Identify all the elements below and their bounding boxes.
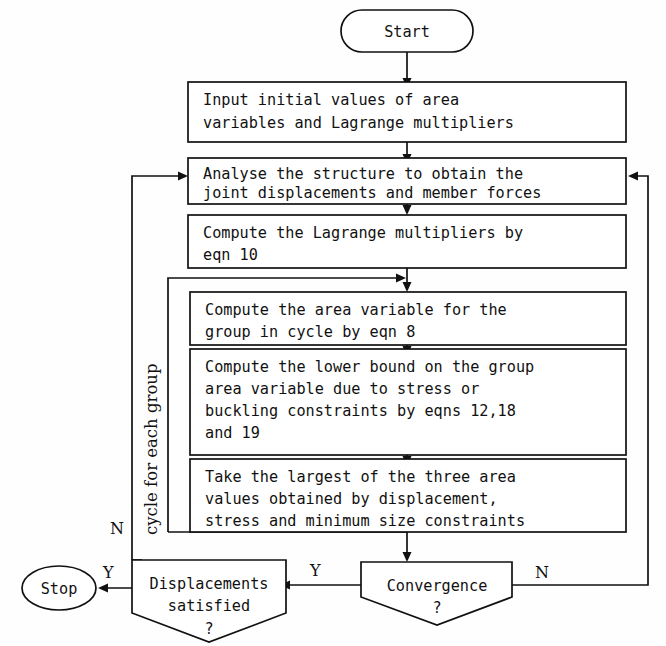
node-analyse-line-1: Analyse the structure to obtain the: [203, 165, 523, 183]
loop-label-cycle-for-each-group: cycle for each group: [142, 363, 161, 535]
node-largest-line-2: values obtained by displacement,: [205, 490, 498, 508]
node-convergence-line-2: ?: [432, 599, 441, 617]
node-lower-bound-line-3: buckling constraints by eqns 12,18: [205, 402, 516, 420]
flowchart-svg: Start Input initial values of area varia…: [0, 0, 666, 646]
node-lower-bound-line-2: area variable due to stress or: [205, 380, 479, 398]
arrowhead-analyse-to-lagrange: [403, 205, 412, 215]
node-lower-bound-line-1: Compute the lower bound on the group: [205, 358, 534, 376]
flowchart-canvas: Start Input initial values of area varia…: [0, 0, 666, 646]
node-displacements-line-3: ?: [204, 620, 213, 638]
node-start-label: Start: [384, 23, 430, 41]
arrowhead-displacements-yes-to-stop: [98, 584, 108, 593]
edge-label-displacements-yes: Y: [102, 563, 114, 582]
node-displacements-line-1: Displacements: [150, 575, 269, 593]
node-largest-line-3: stress and minimum size constraints: [205, 512, 525, 530]
node-input-line-2: variables and Lagrange multipliers: [203, 114, 514, 132]
arrowhead-lagrange-to-area: [403, 282, 412, 292]
node-lagrange-line-1: Compute the Lagrange multipliers by: [203, 224, 523, 242]
arrowhead-largest-to-convergence: [403, 552, 412, 562]
arrowhead-displacements-no-to-analyse: [178, 172, 188, 181]
node-area-variable-line-2: group in cycle by eqn 8: [205, 323, 415, 341]
node-stop-label: Stop: [41, 580, 78, 598]
node-input-line-1: Input initial values of area: [203, 91, 459, 109]
node-largest-line-1: Take the largest of the three area: [205, 468, 516, 486]
node-displacements-line-2: satisfied: [168, 597, 250, 615]
node-area-variable-line-1: Compute the area variable for the: [205, 301, 507, 319]
node-convergence-line-1: Convergence: [387, 577, 488, 595]
arrowhead-convergence-no-to-analyse: [628, 172, 638, 181]
node-lower-bound-line-4: and 19: [205, 424, 260, 442]
node-analyse-line-2: joint displacements and member forces: [203, 184, 541, 202]
arrowhead-group-loop: [396, 274, 406, 283]
node-lagrange-line-2: eqn 10: [203, 246, 258, 264]
edge-label-convergence-yes: Y: [309, 561, 321, 580]
edge-label-convergence-no: N: [535, 563, 549, 582]
edge-label-displacements-no: N: [110, 519, 124, 538]
